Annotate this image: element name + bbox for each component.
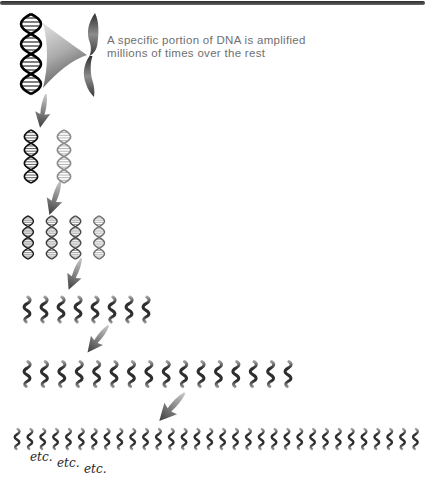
dna-strand-icon — [169, 429, 174, 449]
dna-strand-icon — [285, 362, 291, 387]
strand-row-8 — [24, 297, 149, 322]
strand-row-2 — [24, 130, 70, 183]
dna-strand-icon — [40, 429, 45, 449]
dna-strand-icon — [117, 429, 122, 449]
strand-row-32 — [15, 429, 418, 449]
dna-strand-icon — [94, 216, 105, 259]
dna-strand-icon — [310, 429, 315, 449]
dna-strand-icon — [24, 362, 30, 387]
magnify-funnel-icon — [43, 23, 87, 88]
dna-strand-icon — [146, 362, 152, 387]
dna-strand-icon — [126, 297, 132, 322]
dna-strand-icon — [57, 130, 70, 183]
dna-strand-icon — [268, 362, 274, 387]
dna-strand-icon — [24, 297, 30, 322]
caption-line-1: A specific portion of DNA is amplified — [107, 34, 347, 47]
dna-strand-icon — [400, 429, 405, 449]
strand-row-16 — [24, 362, 291, 387]
dna-strand-icon — [181, 362, 187, 387]
dna-strand-icon — [413, 429, 418, 449]
arrow-down-right-icon — [153, 387, 191, 427]
dna-strand-icon — [130, 429, 135, 449]
dna-strand-icon — [195, 429, 200, 449]
dna-strand-icon — [259, 429, 264, 449]
dna-strand-icon — [41, 362, 47, 387]
dna-strand-icon — [109, 297, 115, 322]
source-dna-group — [21, 13, 98, 97]
dna-strand-icon — [28, 429, 33, 449]
caption-line-2: millions of times over the rest — [107, 47, 347, 60]
dna-strand-icon — [362, 429, 367, 449]
dna-strand-icon — [143, 297, 149, 322]
arrow-down-icon — [33, 93, 54, 129]
etc-label: etc. — [30, 450, 52, 464]
dna-strand-icon — [46, 216, 57, 259]
dna-strand-icon — [297, 429, 302, 449]
dna-strand-icon — [94, 362, 100, 387]
dna-strand-icon — [336, 429, 341, 449]
dna-strand-icon — [323, 429, 328, 449]
dna-strand-icon — [272, 429, 277, 449]
dna-double-helix-icon — [21, 14, 41, 94]
strand-row-4 — [23, 216, 105, 259]
dna-strand-icon — [163, 362, 169, 387]
dna-strand-icon — [24, 130, 37, 183]
dna-strand-icon — [76, 362, 82, 387]
dna-strand-icon — [15, 429, 20, 449]
dna-strand-icon — [207, 429, 212, 449]
dna-strand-icon — [79, 429, 84, 449]
dna-strand-icon — [198, 362, 204, 387]
dna-strand-icon — [128, 362, 134, 387]
dna-strand-icon — [374, 429, 379, 449]
arrow-down-icon — [62, 255, 89, 292]
dna-strand-icon — [387, 429, 392, 449]
pcr-amplification-diagram — [0, 0, 425, 498]
dna-strand-icon — [41, 297, 47, 322]
dna-strand-icon — [58, 297, 64, 322]
dna-strand-icon — [250, 362, 256, 387]
dna-strand-icon — [143, 429, 148, 449]
dna-strand-icon — [53, 429, 58, 449]
dna-strand-icon — [70, 216, 81, 259]
dna-strand-icon — [23, 216, 34, 259]
dna-strand-icon — [246, 429, 251, 449]
etc-label: etc. — [84, 462, 106, 476]
dna-strand-icon — [349, 429, 354, 449]
dna-strand-icon — [285, 429, 290, 449]
dna-strand-icon — [92, 297, 98, 322]
dna-strand-icon — [92, 429, 97, 449]
arrow-down-icon — [42, 178, 69, 217]
dna-strand-icon — [182, 429, 187, 449]
strand-rows — [15, 130, 418, 449]
dna-strand-icon — [111, 362, 117, 387]
caption: A specific portion of DNA is amplified m… — [107, 34, 347, 60]
dna-strand-icon — [105, 429, 110, 449]
dna-strand-icon — [233, 362, 239, 387]
dna-strand-icon — [156, 429, 161, 449]
dna-strand-icon — [220, 429, 225, 449]
dna-strand-icon — [66, 429, 71, 449]
page: A specific portion of DNA is amplified m… — [0, 0, 425, 498]
arrow-down-right-icon — [82, 321, 115, 357]
dna-strand-icon — [59, 362, 65, 387]
dna-strand-icon — [75, 297, 81, 322]
dna-strand-icon — [215, 362, 221, 387]
dna-strand-icon — [233, 429, 238, 449]
etc-label: etc. — [57, 456, 79, 470]
